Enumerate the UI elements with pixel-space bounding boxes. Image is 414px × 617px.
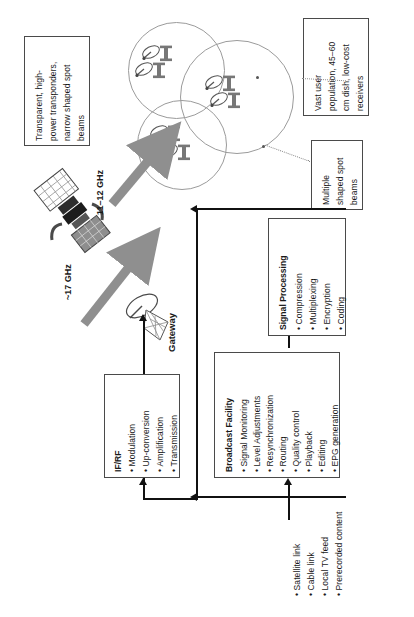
- bullet-icon: •: [317, 466, 327, 472]
- spot-beams-line-3: beams: [349, 179, 360, 205]
- signal-processing-title: Signal Processing: [278, 255, 289, 330]
- bullet-icon: •: [127, 466, 137, 472]
- if-rf-item-1: • Up-conversion: [141, 410, 152, 472]
- user-population-line-4: receivers: [355, 76, 366, 111]
- bullet-icon: •: [278, 466, 288, 472]
- television-icon: [223, 76, 235, 92]
- gateway-feed-arrowhead: [139, 314, 147, 321]
- spot-beams-leader: [265, 145, 310, 162]
- broadcast-facility-item-6: • Editing: [317, 440, 328, 472]
- ifrf-input-arrowhead: [139, 478, 147, 485]
- bullet-icon: •: [141, 466, 151, 472]
- bullet-icon: •: [308, 324, 318, 330]
- bullet-icon: •: [294, 324, 304, 330]
- bullet-icon: •: [155, 466, 165, 472]
- user-population-line-2: population, 45–60: [327, 42, 338, 111]
- broadcast-facility-item-3: • Routing: [278, 436, 289, 472]
- broadcast-facility-item-7: • EPG generation: [330, 405, 341, 472]
- bus-top-arrowhead: [190, 205, 197, 213]
- bullet-icon: •: [304, 466, 314, 472]
- television-icon: [160, 46, 172, 62]
- gateway-label: Gateway: [166, 313, 177, 352]
- signal-processing-item-0: • Compression: [294, 273, 305, 330]
- downlink-beam-arrow: [106, 128, 184, 210]
- content-source-item-0: • Satellite link: [292, 544, 303, 596]
- bullet-icon: •: [334, 590, 344, 596]
- user-population-leader-endpoint: [256, 76, 259, 79]
- broadcast-facility-item-4: • Quality control: [291, 411, 302, 472]
- signal-processing-item-3: • Coding: [336, 297, 347, 330]
- parabolic-dish-icon: [208, 90, 254, 112]
- signal-processing-item-1: • Multiplexing: [308, 278, 319, 330]
- broadcast-facility-title: Broadcast Facility: [224, 398, 235, 472]
- spot-beams-line-2: shaped spot: [335, 158, 346, 205]
- uplink-frequency-label: ~17 GHz: [63, 264, 73, 300]
- sources-to-bf-line: [288, 484, 290, 520]
- bullet-icon: •: [169, 466, 179, 472]
- user-population-line-1: Vast user: [313, 75, 324, 111]
- bullet-icon: •: [336, 324, 346, 330]
- gateway-feed-horizontal: [143, 498, 198, 500]
- television-icon: [228, 93, 240, 109]
- bus-main-vertical: [196, 208, 198, 498]
- bullet-icon: •: [252, 466, 262, 472]
- broadcast-facility-item-2: • Resynchronization: [265, 395, 276, 472]
- receiver-pair: [140, 43, 186, 65]
- transponder-callout-line-2: power transponders,: [48, 62, 59, 141]
- parabolic-dish-icon: [140, 43, 186, 65]
- broadcast-facility-item-5: • Playback: [304, 431, 315, 472]
- bullet-icon: •: [306, 590, 316, 596]
- receiver-pair: [208, 90, 254, 112]
- bullet-icon: •: [320, 590, 330, 596]
- broadcast-facility-item-0: • Signal Monitoring: [239, 399, 250, 472]
- user-population-line-3: cm dish, low-cost: [341, 44, 352, 111]
- broadcast-facility-item-1: • Level Adjustments: [252, 396, 263, 472]
- bus-bottom-horizontal: [196, 496, 346, 498]
- if-rf-title: IF/RF: [113, 451, 124, 472]
- spot-beams-line-1: Multiple: [321, 175, 332, 205]
- bus-top-horizontal: [196, 208, 346, 210]
- bullet-icon: •: [265, 466, 275, 472]
- bullet-icon: •: [239, 466, 249, 472]
- bullet-icon: •: [330, 466, 340, 472]
- if-rf-item-3: • Transmission: [169, 415, 180, 472]
- transponder-callout-line-4: beams: [76, 115, 87, 141]
- transponder-callout-line-3: narrow shaped spot: [62, 65, 73, 141]
- sources-to-bf-arrowhead: [284, 478, 292, 485]
- if-rf-item-0: • Modulation: [127, 424, 138, 472]
- if-rf-item-2: • Amplification: [155, 417, 166, 472]
- content-source-item-2: • Local TV feed: [320, 537, 331, 596]
- bullet-icon: •: [292, 590, 302, 596]
- bullet-icon: •: [291, 466, 301, 472]
- diagram-canvas: Gateway Transparent, high- power transpo…: [0, 0, 414, 617]
- bullet-icon: •: [322, 324, 332, 330]
- transponder-callout-line-1: Transparent, high-: [34, 70, 45, 141]
- spot-beams-leader-endpoint: [262, 145, 265, 148]
- downlink-frequency-label: 11–12 GHz: [95, 170, 105, 215]
- signal-processing-item-2: • Encryption: [322, 283, 333, 330]
- content-source-item-3: • Prerecorded content: [334, 512, 345, 596]
- content-source-item-1: • Cable link: [306, 552, 317, 596]
